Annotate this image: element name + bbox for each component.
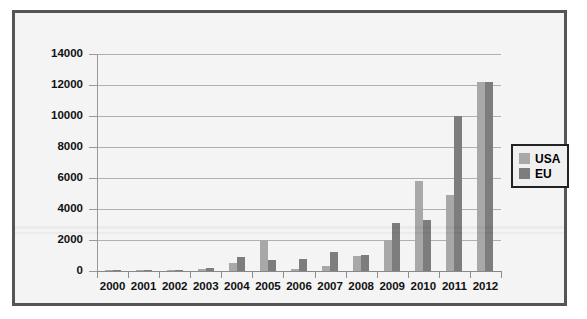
bar-eu-2003: [206, 268, 214, 271]
bar-eu-2006: [299, 259, 307, 271]
bar-usa-2000: [105, 270, 113, 271]
bar-eu-2011: [454, 116, 462, 271]
bar-eu-2000: [113, 270, 121, 271]
bar-eu-2005: [268, 260, 276, 271]
bar-usa-2003: [198, 269, 206, 271]
bar-eu-2009: [392, 223, 400, 271]
bar-eu-2001: [144, 270, 152, 271]
bar-eu-2010: [423, 220, 431, 271]
gridline: [97, 209, 501, 210]
bar-usa-2010: [415, 181, 423, 271]
gridline: [97, 240, 501, 241]
y-tick-label: 10000: [15, 110, 83, 122]
y-tick-label: 2000: [15, 234, 83, 246]
bar-usa-2008: [353, 256, 361, 271]
bar-eu-2008: [361, 255, 369, 271]
plot-area: [97, 54, 501, 271]
y-tick-label: 8000: [15, 141, 83, 153]
gridline: [97, 54, 501, 55]
bar-usa-2001: [136, 270, 144, 271]
gridline: [97, 147, 501, 148]
legend-swatch-usa: [519, 153, 530, 164]
x-tick-mark: [252, 271, 253, 278]
y-tick-mark: [89, 116, 97, 117]
y-tick-label: 6000: [15, 172, 83, 184]
y-tick-label: 0: [15, 265, 83, 277]
gridline: [97, 85, 501, 86]
bar-usa-2005: [260, 240, 268, 271]
y-tick-mark: [89, 85, 97, 86]
bar-usa-2004: [229, 263, 237, 271]
y-tick-mark: [89, 54, 97, 55]
legend-swatch-eu: [519, 168, 530, 179]
x-tick-mark: [439, 271, 440, 278]
bar-usa-2002: [167, 270, 175, 271]
bar-eu-2004: [237, 257, 245, 271]
x-tick-mark: [128, 271, 129, 278]
x-tick-mark: [470, 271, 471, 278]
bar-usa-2007: [322, 266, 330, 271]
bar-eu-2012: [485, 82, 493, 271]
y-tick-mark: [89, 147, 97, 148]
legend-item-eu: EU: [519, 166, 561, 181]
y-tick-mark: [89, 240, 97, 241]
bar-eu-2007: [330, 252, 338, 271]
y-axis-line: [97, 54, 98, 272]
x-tick-mark: [97, 271, 98, 278]
x-tick-mark: [283, 271, 284, 278]
legend-label-eu: EU: [535, 168, 552, 180]
bar-usa-2012: [477, 82, 485, 271]
x-tick-mark: [346, 271, 347, 278]
y-tick-mark: [89, 178, 97, 179]
legend-item-usa: USA: [519, 151, 561, 166]
y-tick-mark: [89, 209, 97, 210]
x-tick-mark: [159, 271, 160, 278]
x-tick-mark: [377, 271, 378, 278]
x-tick-mark: [408, 271, 409, 278]
x-tick-mark: [190, 271, 191, 278]
x-tick-mark: [221, 271, 222, 278]
x-tick-mark: [501, 271, 502, 278]
bar-usa-2006: [291, 269, 299, 271]
chart-legend: USA EU: [511, 144, 569, 188]
gridline: [97, 178, 501, 179]
y-tick-mark: [89, 271, 97, 272]
x-tick-mark: [315, 271, 316, 278]
y-tick-label: 12000: [15, 79, 83, 91]
y-tick-label: 4000: [15, 203, 83, 215]
chart-screenshot: 02000400060008000100001200014000 2000200…: [0, 0, 587, 319]
bar-usa-2009: [384, 240, 392, 271]
gridline: [97, 116, 501, 117]
chart-frame: 02000400060008000100001200014000 2000200…: [12, 10, 567, 306]
legend-label-usa: USA: [535, 153, 560, 165]
bar-eu-2002: [175, 270, 183, 271]
bar-usa-2011: [446, 195, 454, 271]
y-tick-label: 14000: [15, 48, 83, 60]
x-tick-label: 2012: [465, 281, 505, 293]
x-axis-line: [97, 271, 501, 272]
